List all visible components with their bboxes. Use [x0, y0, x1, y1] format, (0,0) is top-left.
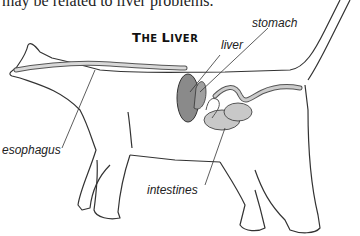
label-intestines: intestines	[147, 183, 198, 197]
label-esophagus: esophagus	[2, 143, 61, 157]
cat-anatomy-illustration	[0, 0, 360, 236]
label-stomach: stomach	[252, 16, 297, 30]
label-liver: liver	[221, 38, 243, 52]
cat-outline	[10, 0, 350, 233]
intestines-shape	[204, 87, 300, 130]
